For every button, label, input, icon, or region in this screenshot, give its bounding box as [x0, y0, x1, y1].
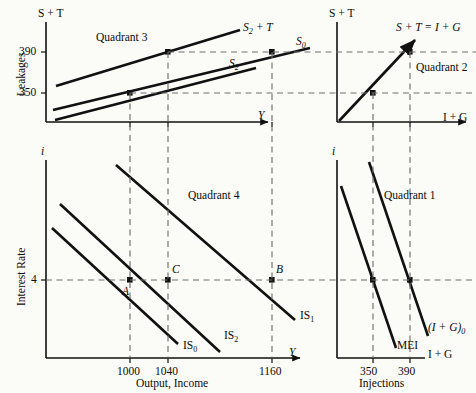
q4-tick-1160: 1160	[259, 366, 282, 378]
q4-x-axis-label: Y	[289, 347, 295, 359]
q3-x-axis-label: Y	[258, 110, 264, 122]
q1-x-axis-caption: Injections	[359, 378, 404, 390]
q1-y-axis-label: i	[332, 146, 335, 158]
q4-tick-4: 4	[31, 274, 37, 286]
q3-tick-350: 350	[19, 87, 36, 99]
q3-tick-390: 390	[19, 46, 36, 58]
quadrant-4-axes	[41, 160, 300, 363]
q4-tick-1000: 1000	[117, 366, 140, 378]
q2-x-axis-label: I + G	[443, 112, 467, 124]
connector-dashed-lines	[46, 52, 476, 358]
q4-point-label-c: C	[172, 264, 180, 276]
q3-curve-label-s2: S2	[229, 58, 239, 70]
quadrant-1-curve-mei	[341, 186, 396, 348]
q4-y-axis-caption: Interest Rate	[16, 248, 28, 306]
q2-line-label: S + T = I + G	[396, 22, 461, 34]
quadrant-3-curve-s2-plus-t	[56, 30, 240, 86]
q4-tick-1040: 1040	[155, 366, 178, 378]
q2-y-axis-label: S + T	[329, 8, 354, 20]
quadrant-2-marked-points	[370, 49, 413, 96]
q4-curve-label-is2: IS2	[224, 330, 238, 342]
quadrant-3-axes	[41, 22, 272, 127]
q1-x-axis-label: I + G	[428, 349, 452, 361]
q4-x-axis-caption: Output, Income	[136, 378, 208, 390]
quadrant-3-marked-points	[127, 49, 275, 96]
q4-quadrant-title: Quadrant 4	[188, 190, 239, 202]
q4-point-label-a: A	[122, 286, 129, 298]
q3-y-axis-label: S + T	[38, 8, 63, 20]
q1-quadrant-title: Quadrant 1	[384, 190, 435, 202]
q1-curve-label-mei: MEI	[397, 340, 418, 352]
q3-curve-label-s0: S0	[296, 36, 306, 48]
q1-tick-350: 350	[360, 366, 377, 378]
q1-tick-390: 390	[398, 366, 415, 378]
q4-y-axis-label: i	[41, 146, 44, 158]
quadrant-4-curve-is0	[52, 228, 178, 344]
four-quadrant-is-curve-figure: S + T Leakages 390 350 Y Quadrant 3 S2 +…	[0, 0, 476, 393]
q3-curve-label-s2-plus-t: S2 + T	[243, 22, 273, 34]
q3-quadrant-title: Quadrant 3	[96, 32, 147, 44]
quadrant-4-curve-is2	[60, 204, 220, 352]
q2-quadrant-title: Quadrant 2	[416, 62, 467, 74]
q1-curve-label-i-plus-g-0: (I + G)0	[428, 322, 465, 334]
q4-curve-label-is0: IS0	[183, 340, 197, 352]
q4-point-label-b: B	[276, 264, 283, 276]
q4-curve-label-is1: IS1	[300, 310, 314, 322]
